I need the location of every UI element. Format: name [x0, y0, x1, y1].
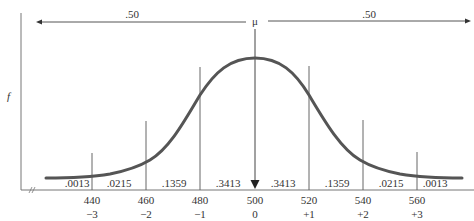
area-label: .0215 [107, 177, 132, 189]
x-score-label: 560 [409, 194, 426, 206]
x-score-label: 540 [355, 194, 372, 206]
x-z-label: +1 [303, 208, 315, 220]
x-z-label: +2 [357, 208, 369, 220]
x-score-label: 460 [138, 194, 155, 206]
mean-label: μ [252, 15, 258, 27]
left-half-arrow [36, 20, 246, 25]
area-label: .0215 [379, 177, 404, 189]
normal-curve [46, 58, 462, 178]
area-label: .3413 [271, 177, 296, 189]
x-score-label: 500 [247, 194, 264, 206]
x-z-labels: −3 −2 −1 0 +1 +2 +3 [86, 208, 423, 220]
area-label: .0013 [65, 177, 90, 189]
x-z-label: −2 [140, 208, 152, 220]
x-z-label: −1 [194, 208, 206, 220]
x-score-label: 520 [301, 194, 318, 206]
area-label: .1359 [325, 177, 350, 189]
x-score-label: 440 [84, 194, 101, 206]
mean-arrow [251, 29, 260, 189]
x-score-labels: 440 460 480 500 520 540 560 [84, 194, 426, 206]
y-axis-label: f [7, 90, 12, 102]
x-z-label: −3 [86, 208, 98, 220]
x-z-label: 0 [252, 208, 258, 220]
x-z-label: +3 [411, 208, 423, 220]
area-label: .1359 [162, 177, 187, 189]
x-score-label: 480 [192, 194, 209, 206]
left-half-area-label: .50 [125, 8, 139, 20]
right-half-area-label: .50 [362, 8, 376, 20]
area-label: .0013 [423, 177, 448, 189]
area-label: .3413 [216, 177, 241, 189]
normal-distribution-chart: f .50 μ .50 .0013 .0215 .1359 .3413 .341… [0, 0, 474, 221]
